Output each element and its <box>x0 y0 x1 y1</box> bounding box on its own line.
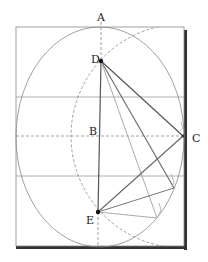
point-e <box>96 210 100 214</box>
label-e: E <box>86 214 94 227</box>
point-c <box>182 135 185 138</box>
label-b: B <box>89 125 97 138</box>
frame-shadow-right <box>184 30 187 250</box>
diagram-canvas: A D B C E <box>0 0 208 262</box>
frame-shadow-bottom <box>16 246 187 249</box>
label-c: C <box>192 132 200 145</box>
label-a: A <box>96 11 106 24</box>
label-d: D <box>91 53 100 66</box>
